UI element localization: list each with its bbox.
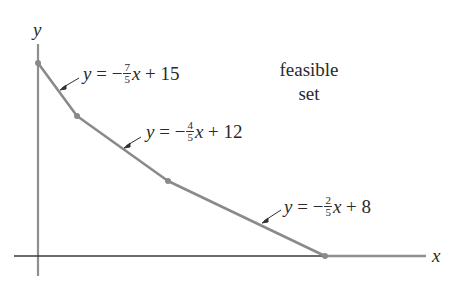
leader-arrows xyxy=(60,78,281,223)
y-axis-label: y xyxy=(33,20,41,39)
feasible-label-line2: set xyxy=(274,84,344,103)
equation-3: y = −25x + 8 xyxy=(284,197,371,220)
feasible-set-label: feasible set xyxy=(274,60,344,103)
feasible-label-line1: feasible xyxy=(274,60,344,79)
vertex-point xyxy=(165,178,171,184)
fraction: 45 xyxy=(186,120,194,143)
vertex-point xyxy=(74,113,80,119)
fraction: 75 xyxy=(123,62,131,85)
equation-1: y = −75x + 15 xyxy=(83,64,180,87)
feasible-set-diagram: y x feasible set y = −75x + 15 y = −45x … xyxy=(0,0,454,283)
fraction: 25 xyxy=(324,195,332,218)
equation-2: y = −45x + 12 xyxy=(146,122,243,145)
x-axis-label: x xyxy=(432,246,440,265)
vertex-point xyxy=(35,60,41,66)
vertex-point xyxy=(322,253,328,259)
